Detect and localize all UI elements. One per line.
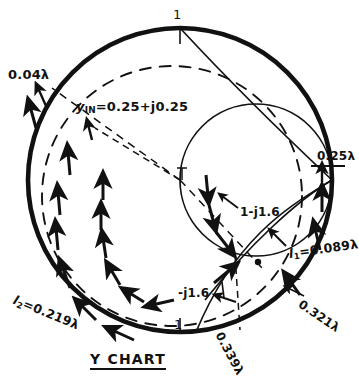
- leader-arrow-yin: [88, 124, 92, 140]
- rotation-arrows-inner: [101, 180, 144, 302]
- leader-arrow-0p25-lambda: [311, 166, 345, 182]
- label-y-in: yIN=0.25+j0.25: [76, 100, 188, 115]
- marker-point-matching: [255, 259, 261, 265]
- leader-arrow-l1: [272, 232, 286, 246]
- leader-arrow-1-minus-j1p6: [222, 196, 238, 208]
- unity-conductance-circle: [180, 104, 332, 256]
- radial-line-to-matching-point: [180, 180, 262, 268]
- radial-line-to-yin: [95, 128, 180, 180]
- label-wavelength-0p25: 0.25λ: [317, 150, 355, 162]
- label-top-unit: 1: [173, 8, 181, 21]
- label-wavelength-0p04: 0.04λ: [8, 68, 49, 81]
- label-y-in-subscript: IN: [85, 105, 96, 115]
- smith-chart-figure: 1 1 0.04λ yIN=0.25+j0.25 0.25λ 1-j1.6 -j…: [0, 0, 359, 383]
- label-y-in-symbol: y: [76, 99, 85, 114]
- leader-arrow-0p04-lambda: [38, 88, 46, 106]
- label-y-in-value: =0.25+j0.25: [96, 99, 189, 114]
- label-bottom-unit: 1: [174, 318, 182, 331]
- leader-arrow-minus-j1p6: [218, 282, 236, 302]
- label-arc-minus-j1p6: -j1.6: [178, 287, 209, 299]
- figure-title: Y CHART: [90, 352, 166, 370]
- label-point-1-minus-j1p6: 1-j1.6: [240, 206, 280, 218]
